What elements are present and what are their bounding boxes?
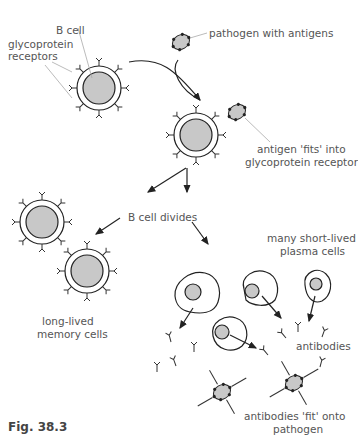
label-b-cell: B cell [56, 24, 85, 36]
label-plasma-2: plasma cells [280, 245, 345, 257]
label-memory-2: memory cells [37, 328, 108, 340]
pathogen-bound [224, 100, 250, 124]
label-plasma-1: many short-lived [267, 232, 356, 244]
label-receptors-1: glycoprotein [8, 38, 73, 50]
memory-cell-1 [12, 192, 72, 252]
label-ab-fit-2: pathogen [273, 423, 323, 435]
pathogen-with-antibodies-2 [257, 347, 330, 418]
label-fits-1: antigen 'fits' into [257, 143, 346, 155]
label-pathogen: pathogen with antigens [209, 27, 333, 39]
label-antibodies: antibodies [296, 340, 351, 352]
label-fits-2: glycoprotein receptor [245, 156, 358, 168]
label-memory-1: long-lived [42, 315, 94, 327]
pathogen-top [168, 30, 194, 54]
label-divides: B cell divides [128, 211, 197, 223]
figure-caption: Fig. 38.3 [8, 420, 67, 434]
memory-cell-2 [57, 241, 117, 301]
plasma-cells [175, 270, 331, 350]
b-cell-original [69, 58, 129, 118]
label-receptors-2: receptors [8, 50, 58, 62]
b-cell-activated [166, 105, 226, 165]
label-ab-fit-1: antibodies 'fit' onto [244, 410, 346, 422]
